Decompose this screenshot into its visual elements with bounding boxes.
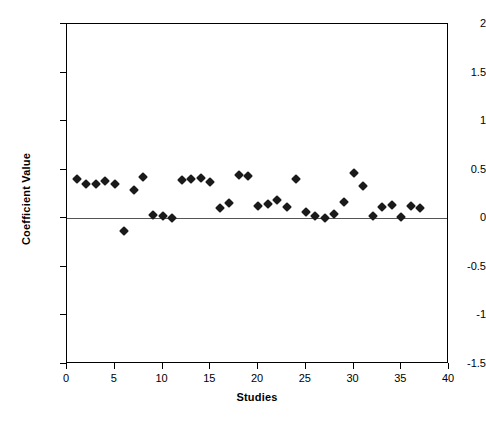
data-point xyxy=(138,172,148,182)
data-point xyxy=(205,177,215,187)
x-axis-tick-label: 10 xyxy=(142,372,182,384)
y-axis-title: Coefficient Value xyxy=(20,129,32,269)
data-point xyxy=(167,213,177,223)
x-axis-tick xyxy=(448,363,449,369)
zero-reference-line xyxy=(67,218,447,219)
x-axis-tick xyxy=(353,363,354,369)
data-point xyxy=(224,198,234,208)
x-axis-tick-label: 0 xyxy=(46,372,86,384)
data-point xyxy=(406,201,416,211)
data-point xyxy=(368,211,378,221)
data-point xyxy=(320,213,330,223)
data-point xyxy=(349,168,359,178)
x-axis-tick-label: 25 xyxy=(285,372,325,384)
data-point xyxy=(234,170,244,180)
data-point xyxy=(81,179,91,189)
data-point xyxy=(310,211,320,221)
x-axis-tick xyxy=(209,363,210,369)
data-point xyxy=(358,181,368,191)
data-point xyxy=(186,174,196,184)
x-axis-tick xyxy=(257,363,258,369)
x-axis-tick-label: 5 xyxy=(94,372,134,384)
data-point xyxy=(158,211,168,221)
x-axis-tick xyxy=(114,363,115,369)
x-axis-title: Studies xyxy=(66,391,448,403)
x-axis-tick-label: 20 xyxy=(237,372,277,384)
x-axis-tick xyxy=(400,363,401,369)
data-point xyxy=(415,203,425,213)
data-point xyxy=(282,202,292,212)
scatter-chart: -1.5-1-0.500.511.52 0510152025303540 Coe… xyxy=(0,0,486,421)
x-axis-tick-label: 30 xyxy=(333,372,373,384)
data-point xyxy=(72,174,82,184)
data-point xyxy=(387,200,397,210)
x-axis-tick-label: 35 xyxy=(380,372,420,384)
data-point xyxy=(243,171,253,181)
data-point xyxy=(272,195,282,205)
x-axis-tick xyxy=(162,363,163,369)
data-point xyxy=(177,175,187,185)
x-axis-tick xyxy=(66,363,67,369)
data-point xyxy=(215,203,225,213)
data-point xyxy=(253,201,263,211)
data-point xyxy=(396,212,406,222)
data-point xyxy=(119,226,129,236)
data-point xyxy=(263,199,273,209)
x-axis-tick-label: 15 xyxy=(189,372,229,384)
data-point xyxy=(100,176,110,186)
data-point xyxy=(291,174,301,184)
plot-area xyxy=(66,23,448,363)
data-point xyxy=(110,179,120,189)
x-axis-tick xyxy=(305,363,306,369)
data-point xyxy=(377,202,387,212)
x-axis-tick-label: 40 xyxy=(428,372,468,384)
data-point xyxy=(339,197,349,207)
data-point xyxy=(129,185,139,195)
